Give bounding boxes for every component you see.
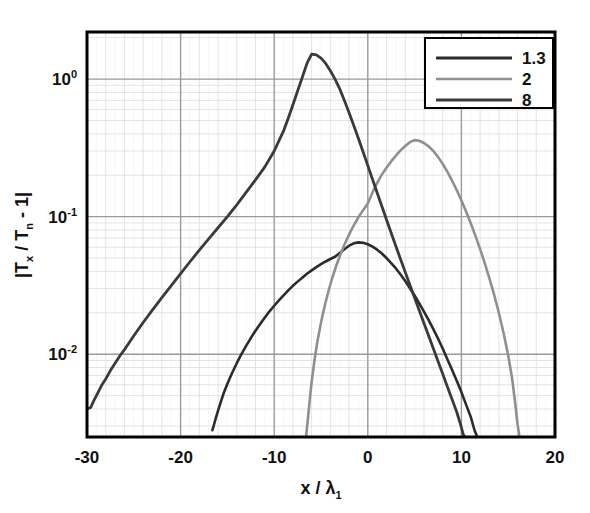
x-axis-title-lambda: λ	[325, 478, 335, 498]
svg-text:x / λ1: x / λ1	[300, 478, 341, 501]
y-tick-exponent: -1	[67, 206, 77, 218]
legend[interactable]: 1.328	[425, 38, 553, 110]
x-tick-label: 10	[452, 448, 471, 467]
y-axis-title-part1: |T	[12, 262, 32, 278]
y-tick-base: 10	[48, 345, 67, 364]
x-axis-title-subscript: 1	[335, 489, 341, 501]
x-tick-label: -30	[75, 448, 100, 467]
x-tick-label: -10	[262, 448, 287, 467]
x-axis-title-main: x /	[300, 478, 325, 498]
x-tick-label: -20	[168, 448, 193, 467]
x-tick-label: 20	[546, 448, 565, 467]
y-tick-exponent: -2	[67, 343, 77, 355]
x-axis-title: x / λ1	[300, 478, 341, 501]
x-tick-label: 0	[363, 448, 372, 467]
legend-label-8: 8	[522, 91, 531, 110]
svg-text:|Tx / Tn - 1|: |Tx / Tn - 1|	[12, 192, 35, 278]
legend-items: 1.328	[436, 49, 546, 110]
legend-label-1-3: 1.3	[522, 49, 546, 68]
y-tick-exponent: 0	[71, 68, 77, 80]
y-axis-title: |Tx / Tn - 1|	[12, 192, 35, 278]
y-axis-title-part2: / T	[12, 230, 32, 256]
figure-container: -30-20-1001020 10010-110-2 x / λ1 |Tx / …	[0, 0, 590, 513]
y-tick-base: 10	[52, 70, 71, 89]
legend-label-2: 2	[522, 70, 531, 89]
chart-canvas: -30-20-1001020 10010-110-2 x / λ1 |Tx / …	[0, 0, 590, 513]
y-axis-title-part3: - 1|	[12, 192, 32, 223]
y-tick-base: 10	[48, 208, 67, 227]
